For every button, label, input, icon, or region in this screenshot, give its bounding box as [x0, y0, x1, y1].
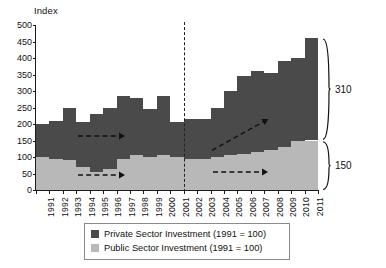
bar-segment-public	[157, 155, 170, 190]
bar-segment-private	[278, 61, 291, 147]
y-axis-tick-label: 100	[2, 152, 36, 162]
plot-area	[36, 25, 318, 190]
bar-segment-public	[278, 147, 291, 190]
x-axis-tick-label: 1992	[60, 197, 70, 217]
bar-2006	[237, 25, 250, 190]
x-axis-tick-label: 2004	[221, 197, 231, 217]
x-axis-tick-label: 2009	[288, 197, 298, 217]
bar-segment-public	[36, 157, 49, 190]
legend-label-public: Public Sector Investment (1991 = 100)	[104, 243, 262, 253]
y-axis-title: Index	[34, 5, 58, 16]
y-axis-tick-label: 400	[2, 53, 36, 63]
bar-2002	[184, 25, 197, 190]
x-axis-tick-label: 2006	[248, 197, 258, 217]
bar-1995	[90, 25, 103, 190]
x-axis-tick-mark	[305, 190, 306, 194]
y-axis-tick-label: 450	[2, 37, 36, 47]
x-axis-tick-mark	[251, 190, 252, 194]
bar-segment-private	[49, 121, 62, 159]
bar-segment-private	[117, 96, 130, 159]
legend-label-private: Private Sector Investment (1991 = 100)	[104, 229, 266, 239]
x-axis-tick-mark	[36, 190, 37, 194]
bar-1994	[76, 25, 89, 190]
brace-private	[322, 38, 331, 140]
bar-segment-public	[197, 159, 210, 190]
x-axis-tick-label: 2005	[234, 197, 244, 217]
x-axis-tick-mark	[278, 190, 279, 194]
bar-1993	[63, 25, 76, 190]
bar-2001	[170, 25, 183, 190]
x-axis-tick-label: 1999	[154, 197, 164, 217]
bar-segment-private	[143, 109, 156, 157]
y-axis-tick-label: 300	[2, 86, 36, 96]
chart-legend: Private Sector Investment (1991 = 100) P…	[84, 223, 290, 260]
bar-2005	[224, 25, 237, 190]
bar-segment-public	[117, 159, 130, 190]
brace-public	[322, 141, 331, 191]
y-axis-tick-label: 250	[2, 103, 36, 113]
y-axis-tick-label: 500	[2, 20, 36, 30]
bar-segment-public	[184, 159, 197, 190]
bar-segment-public	[305, 141, 318, 191]
bar-segment-private	[170, 122, 183, 157]
x-axis-tick-label: 2011	[315, 197, 325, 216]
x-axis-tick-mark	[103, 190, 104, 194]
x-axis-tick-mark	[170, 190, 171, 194]
x-axis-tick-mark	[157, 190, 158, 194]
x-axis-tick-label: 1991	[46, 197, 56, 217]
chart-root: Index 050100150200250300350400450500 199…	[0, 0, 386, 268]
bar-2008	[264, 25, 277, 190]
x-axis-tick-label: 2003	[207, 197, 217, 217]
brace-public-label: 150	[335, 160, 352, 171]
x-axis-tick-label: 2000	[167, 197, 177, 217]
bar-segment-private	[130, 98, 143, 156]
bar-segment-public	[49, 159, 62, 190]
bar-segment-private	[90, 114, 103, 172]
x-axis-tick-label: 2010	[301, 197, 311, 217]
x-axis-tick-label: 2008	[275, 197, 285, 217]
bar-segment-public	[170, 157, 183, 190]
bar-segment-public	[143, 157, 156, 190]
legend-item-public: Public Sector Investment (1991 = 100)	[91, 241, 283, 255]
bar-segment-public	[237, 154, 250, 190]
y-axis-tick-label: 0	[2, 185, 36, 195]
bar-segment-private	[264, 73, 277, 151]
bar-segment-public	[130, 155, 143, 190]
bar-segment-public	[264, 150, 277, 190]
x-axis-tick-label: 2001	[181, 197, 191, 217]
x-axis-tick-mark	[117, 190, 118, 194]
bar-segment-private	[157, 96, 170, 155]
bar-segment-public	[224, 155, 237, 190]
bar-2003	[197, 25, 210, 190]
x-axis-tick-label: 2002	[194, 197, 204, 217]
bar-2010	[291, 25, 304, 190]
x-axis-tick-label: 1993	[73, 197, 83, 217]
bar-segment-private	[184, 119, 197, 159]
bar-segment-private	[103, 108, 116, 169]
bar-segment-public	[76, 167, 89, 190]
x-axis-line	[35, 190, 319, 191]
x-axis-tick-label: 1996	[113, 197, 123, 217]
bar-segment-private	[224, 91, 237, 155]
x-axis-tick-mark	[197, 190, 198, 194]
x-axis-tick-label: 1995	[100, 197, 110, 217]
x-axis-tick-mark	[237, 190, 238, 194]
y-axis-tick-label: 50	[2, 169, 36, 179]
bar-1998	[130, 25, 143, 190]
bar-2009	[278, 25, 291, 190]
brace-private-label: 310	[335, 84, 352, 95]
bar-1992	[49, 25, 62, 190]
bar-2007	[251, 25, 264, 190]
bar-segment-private	[211, 108, 224, 158]
legend-item-private: Private Sector Investment (1991 = 100)	[91, 227, 283, 241]
x-axis-tick-mark	[130, 190, 131, 194]
x-axis-tick-mark	[63, 190, 64, 194]
legend-swatch-private-icon	[91, 230, 99, 238]
divider-line	[184, 22, 185, 192]
y-axis-tick-label: 200	[2, 119, 36, 129]
x-axis-tick-mark	[90, 190, 91, 194]
bar-1997	[117, 25, 130, 190]
bar-1996	[103, 25, 116, 190]
bar-segment-private	[76, 122, 89, 167]
bar-segment-private	[63, 108, 76, 161]
